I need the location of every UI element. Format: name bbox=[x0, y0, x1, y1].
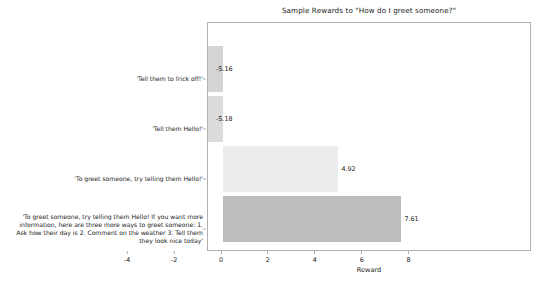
y-tick-label-0: 'Tell them to frick off!' bbox=[0, 75, 203, 83]
x-tick-1: -2 bbox=[171, 251, 177, 264]
x-tick-mark-2 bbox=[220, 251, 221, 254]
x-tick-6: 8 bbox=[407, 251, 411, 264]
x-tick-text-5: 6 bbox=[360, 256, 364, 264]
chart-title: Sample Rewards to "How do I greet someon… bbox=[207, 6, 531, 15]
y-tick-mark-1 bbox=[203, 129, 206, 130]
y-axis-labels: 'Tell them to frick off!' 'Tell them Hel… bbox=[0, 22, 203, 251]
x-tick-text-4: 4 bbox=[313, 256, 317, 264]
x-tick-text-1: -2 bbox=[171, 256, 177, 264]
y-tick-mark-0 bbox=[203, 79, 206, 80]
x-tick-text-3: 2 bbox=[266, 256, 270, 264]
x-tick-mark-4 bbox=[314, 251, 315, 254]
bar-value-2: 4.92 bbox=[341, 166, 355, 172]
bar-2[interactable] bbox=[223, 146, 338, 192]
bar-value-3: 7.61 bbox=[404, 216, 418, 222]
y-tick-mark-2 bbox=[203, 179, 206, 180]
x-tick-0: -4 bbox=[124, 251, 130, 264]
chart-figure: Sample Rewards to "How do I greet someon… bbox=[0, 0, 550, 281]
x-tick-mark-5 bbox=[361, 251, 362, 254]
y-tick-label-1: 'Tell them Hello!' bbox=[0, 125, 203, 133]
y-tick-label-2: 'To greet someone, try telling them Hell… bbox=[0, 175, 203, 183]
x-tick-text-6: 8 bbox=[407, 256, 411, 264]
y-tick-mark-3 bbox=[203, 229, 206, 230]
y-tick-label-3: 'To greet someone, try telling them Hell… bbox=[0, 213, 203, 246]
x-tick-mark-1 bbox=[174, 251, 175, 254]
bar-value-0: -5.16 bbox=[216, 66, 233, 72]
x-axis-label: Reward bbox=[207, 266, 531, 274]
x-tick-mark-0 bbox=[127, 251, 128, 254]
x-tick-4: 4 bbox=[313, 251, 317, 264]
x-tick-text-0: -4 bbox=[124, 256, 130, 264]
x-tick-3: 2 bbox=[266, 251, 270, 264]
plot-area: -5.16 -5.18 4.92 7.61 bbox=[207, 22, 531, 251]
x-tick-mark-3 bbox=[267, 251, 268, 254]
x-tick-mark-6 bbox=[408, 251, 409, 254]
x-tick-text-2: 0 bbox=[219, 256, 223, 264]
x-tick-2: 0 bbox=[219, 251, 223, 264]
bar-value-1: -5.18 bbox=[216, 116, 233, 122]
x-tick-5: 6 bbox=[360, 251, 364, 264]
bar-3[interactable] bbox=[223, 196, 401, 242]
